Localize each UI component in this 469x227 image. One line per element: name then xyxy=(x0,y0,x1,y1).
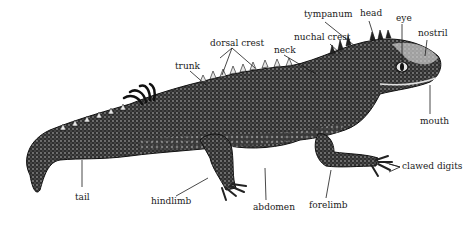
label-mouth: mouth xyxy=(420,117,449,126)
tuatara-anatomy-diagram: tympanum head eye nostril nuchal crest d… xyxy=(0,0,469,227)
label-neck: neck xyxy=(274,46,296,55)
tuatara-illustration xyxy=(0,0,469,227)
label-hindlimb: hindlimb xyxy=(151,197,191,206)
forelimb-graphic xyxy=(315,134,378,167)
label-tail: tail xyxy=(75,193,90,202)
label-trunk: trunk xyxy=(175,62,200,71)
body-silhouette xyxy=(27,39,441,192)
label-forelimb: forelimb xyxy=(309,201,347,210)
label-nostril: nostril xyxy=(418,29,448,38)
label-head: head xyxy=(360,9,382,18)
raised-hindfoot xyxy=(124,84,155,104)
label-clawed-digits: clawed digits xyxy=(402,162,462,171)
label-dorsal-crest: dorsal crest xyxy=(210,39,264,48)
label-tympanum: tympanum xyxy=(304,10,353,19)
label-abdomen: abdomen xyxy=(253,203,295,212)
label-nuchal-crest: nuchal crest xyxy=(294,33,350,42)
label-eye: eye xyxy=(396,14,412,23)
